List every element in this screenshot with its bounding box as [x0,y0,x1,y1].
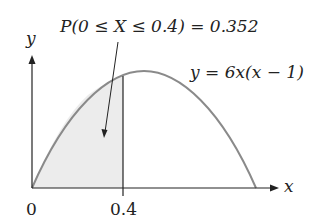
x-axis-arrow-icon [270,185,279,192]
function-label: y = 6x(x − 1) [190,62,304,82]
probability-label: P(0 ≤ X ≤ 0.4) = 0.352 [60,16,258,36]
shaded-region [32,76,123,188]
tick-label-0-4: 0.4 [110,199,137,219]
pdf-diagram: y x 0 0.4 P(0 ≤ X ≤ 0.4) = 0.352 y = 6x(… [0,0,325,221]
x-axis-label: x [284,176,294,196]
tick-label-0: 0 [26,199,37,219]
y-axis-arrow-icon [29,55,36,64]
y-axis-label: y [26,28,36,48]
